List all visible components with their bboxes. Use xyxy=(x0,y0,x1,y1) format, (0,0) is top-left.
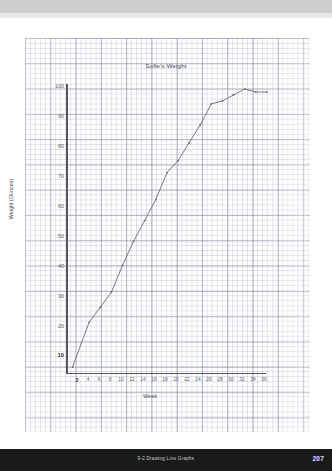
data-line-sofie-weight xyxy=(73,89,267,367)
footer-lesson-label: 9-2 Drawing Line Graphs xyxy=(0,456,332,461)
data-point-markers xyxy=(72,88,268,368)
data-point xyxy=(166,172,168,174)
data-point xyxy=(266,91,268,93)
data-point xyxy=(133,241,135,243)
data-point xyxy=(177,160,179,162)
data-point xyxy=(155,199,157,201)
textbook-page: Sofie's Weight 100 90 80 70 60 50 40 30 … xyxy=(0,0,332,471)
data-point xyxy=(233,94,235,96)
data-point xyxy=(122,264,124,266)
data-point xyxy=(72,366,74,368)
data-point xyxy=(88,321,90,323)
data-point xyxy=(144,220,146,222)
footer-page-number: 207 xyxy=(313,455,324,462)
chart-area: Sofie's Weight 100 90 80 70 60 50 40 30 … xyxy=(0,0,332,471)
data-point xyxy=(244,88,246,90)
data-point xyxy=(199,124,201,126)
data-point xyxy=(188,142,190,144)
data-point xyxy=(210,103,212,105)
data-point xyxy=(222,100,224,102)
data-point xyxy=(99,306,101,308)
data-point xyxy=(111,291,113,293)
data-point xyxy=(255,91,257,93)
data-line-layer xyxy=(0,0,332,471)
